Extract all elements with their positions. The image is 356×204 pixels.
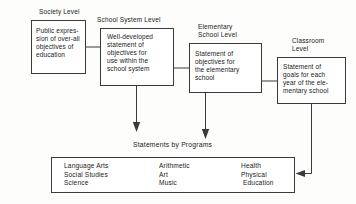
caption-classroom-level: Classroom Level: [292, 37, 324, 52]
arrowhead-school-system-down: [133, 122, 140, 132]
programs-column-3: Health Physical Education: [241, 162, 274, 188]
arrowhead-classroom-to-programs: [296, 170, 306, 177]
connector-classroom-to-programs: [303, 104, 312, 174]
text-elementary-objectives: Statement of objectives for the elementa…: [195, 50, 239, 82]
objectives-flowchart: Society Level School System Level Elemen…: [0, 0, 356, 204]
programs-column-1: Language Arts Social Studies Science: [64, 162, 108, 188]
programs-column-2: Arithmetic Art Music: [159, 162, 190, 188]
caption-school-system-level: School System Level: [97, 16, 161, 24]
text-classroom-goals: Statement of goals for each year of the …: [283, 63, 328, 95]
programs-title: Statements by Programs: [133, 141, 212, 148]
arrowhead-elementary-down: [202, 129, 209, 139]
text-society-objectives: Public expres- sion of over-all objectiv…: [36, 27, 80, 59]
text-school-system-objectives: Well-developed statement of objectives f…: [107, 33, 153, 73]
caption-society-level: Society Level: [39, 8, 80, 16]
caption-elementary-school-level: Elementary School Level: [198, 23, 237, 38]
